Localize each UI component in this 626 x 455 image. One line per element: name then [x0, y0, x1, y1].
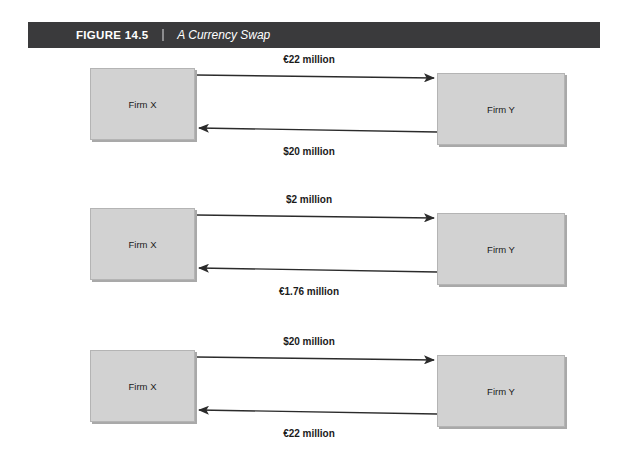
firm-x-label: Firm X [129, 99, 157, 110]
arrow-x-to-y [196, 357, 434, 360]
firm-x-label: Firm X [129, 381, 157, 392]
firm-x-box: Firm X [90, 350, 195, 422]
flow-label-bottom: $20 million [0, 146, 622, 157]
firm-y-label: Firm Y [487, 104, 515, 115]
swap-row: Firm X Firm Y $20 million €22 million [0, 337, 626, 447]
flow-label-bottom: €1.76 million [0, 286, 622, 297]
swap-row: Firm X Firm Y $2 million €1.76 million [0, 195, 626, 305]
firm-x-box: Firm X [90, 68, 195, 140]
flow-label-top: $2 million [0, 194, 622, 205]
swap-row: Firm X Firm Y €22 million $20 million [0, 55, 626, 165]
firm-y-box: Firm Y [437, 73, 565, 145]
flow-label-bottom: €22 million [0, 428, 622, 439]
firm-y-box: Firm Y [437, 213, 565, 285]
firm-y-label: Firm Y [487, 244, 515, 255]
firm-x-label: Firm X [129, 239, 157, 250]
firm-y-label: Firm Y [487, 386, 515, 397]
flow-label-top: $20 million [0, 336, 622, 347]
arrow-y-to-x [199, 268, 437, 272]
flow-label-top: €22 million [0, 54, 622, 65]
arrow-x-to-y [196, 215, 434, 218]
arrow-y-to-x [199, 410, 437, 414]
currency-swap-diagram: Firm X Firm Y €22 million $20 million Fi… [0, 0, 626, 455]
arrow-x-to-y [196, 75, 434, 78]
arrow-y-to-x [199, 128, 437, 132]
firm-y-box: Firm Y [437, 355, 565, 427]
firm-x-box: Firm X [90, 208, 195, 280]
